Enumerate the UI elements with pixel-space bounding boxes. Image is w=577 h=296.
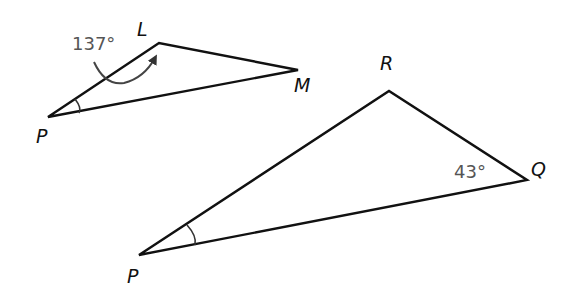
vertex-p-label-small: P [36, 125, 48, 147]
triangle-plm-edges [48, 43, 298, 117]
angle-l-label: 137° [72, 33, 115, 54]
vertex-m-label: M [294, 74, 310, 96]
vertex-r-label: R [380, 52, 393, 74]
angle-q-label: 43° [454, 161, 486, 182]
triangle-plm: 137° L M P [36, 18, 310, 147]
triangle-prq: 43° R Q P [127, 52, 546, 287]
vertex-p-label-large: P [127, 265, 139, 287]
angle-p-arc-large [187, 225, 195, 245]
diagram-canvas: 137° L M P 43° R Q P [0, 0, 577, 296]
vertex-l-label: L [137, 18, 148, 40]
vertex-q-label: Q [531, 158, 546, 180]
